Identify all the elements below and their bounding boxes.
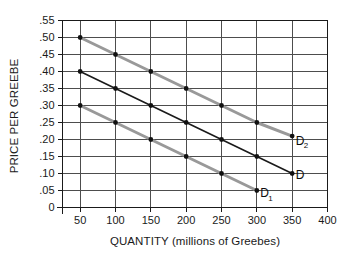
data-point-D xyxy=(184,120,189,125)
data-point-D1 xyxy=(254,188,259,193)
y-tick-label: .45 xyxy=(39,48,54,60)
x-tick-label: 400 xyxy=(318,214,336,226)
curve-label-subscript: 1 xyxy=(268,194,273,203)
x-tick-label: 350 xyxy=(283,214,301,226)
y-tick-label: 0 xyxy=(48,201,54,213)
data-point-D2 xyxy=(184,86,189,91)
data-point-D2 xyxy=(290,134,295,139)
curve-label-D: D xyxy=(296,168,305,182)
data-point-D1 xyxy=(113,120,118,125)
data-point-D xyxy=(148,103,153,108)
x-tick-label: 150 xyxy=(142,214,160,226)
y-tick-label: .15 xyxy=(39,150,54,162)
data-point-D2 xyxy=(148,69,153,74)
y-tick-label: .50 xyxy=(39,31,54,43)
data-point-D xyxy=(254,154,259,159)
x-axis-title: QUANTITY (millions of Greebes) xyxy=(110,235,280,247)
y-tick-label: .35 xyxy=(39,82,54,94)
y-tick-label: .30 xyxy=(39,99,54,111)
data-point-D1 xyxy=(78,103,83,108)
y-axis-title: PRICE PER GREEBE xyxy=(8,58,20,173)
curve-label-subscript: 2 xyxy=(304,141,309,150)
data-point-D1 xyxy=(184,154,189,159)
y-tick-label: .20 xyxy=(39,133,54,145)
y-tick-label: .10 xyxy=(39,167,54,179)
data-point-D2 xyxy=(219,103,224,108)
x-tick-label: 300 xyxy=(248,214,266,226)
data-point-D xyxy=(113,86,118,91)
data-point-D2 xyxy=(113,52,118,57)
curve-label-text: D xyxy=(296,168,305,182)
data-point-D2 xyxy=(78,35,83,40)
data-point-D xyxy=(219,137,224,142)
data-point-D2 xyxy=(254,120,259,125)
x-tick-label: 50 xyxy=(74,214,86,226)
data-point-D xyxy=(290,171,295,176)
data-point-D1 xyxy=(219,171,224,176)
chart-container: 50100150200250300350400 0.05.10.15.20.25… xyxy=(0,0,355,262)
y-tick-label: .40 xyxy=(39,65,54,77)
demand-curve-chart: 50100150200250300350400 0.05.10.15.20.25… xyxy=(0,0,355,262)
x-tick-label: 100 xyxy=(106,214,124,226)
y-tick-label: .25 xyxy=(39,116,54,128)
x-tick-label: 200 xyxy=(177,214,195,226)
data-point-D xyxy=(78,69,83,74)
data-point-D1 xyxy=(148,137,153,142)
x-tick-label: 250 xyxy=(212,214,230,226)
y-tick-label: .05 xyxy=(39,184,54,196)
y-tick-label: .55 xyxy=(39,14,54,26)
